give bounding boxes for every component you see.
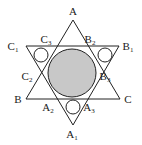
small-circle-right bbox=[98, 48, 112, 62]
label-B3: B3 bbox=[100, 70, 111, 84]
label-C2: C2 bbox=[22, 70, 33, 84]
small-circle-left bbox=[34, 48, 48, 62]
small-circle-bottom bbox=[66, 100, 80, 114]
label-B2: B2 bbox=[85, 33, 96, 47]
label-A3: A3 bbox=[83, 101, 95, 115]
label-C1: C1 bbox=[8, 40, 19, 54]
label-B: B bbox=[14, 93, 21, 105]
inscribed-circle-shaded bbox=[48, 49, 96, 97]
label-C3: C3 bbox=[41, 33, 52, 47]
label-A1: A1 bbox=[66, 128, 78, 142]
label-A2: A2 bbox=[42, 101, 54, 115]
hexagram-diagram: ABCA1B1C1A2A3B2B3C2C3 bbox=[0, 0, 142, 145]
label-A: A bbox=[69, 5, 77, 17]
label-B1: B1 bbox=[123, 40, 134, 54]
label-C: C bbox=[124, 93, 131, 105]
